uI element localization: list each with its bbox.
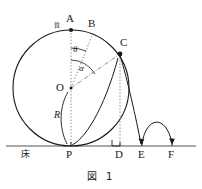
label-mass: 質 xyxy=(54,22,60,28)
label-point-c: C xyxy=(120,37,127,48)
point-marker-c xyxy=(118,52,123,57)
diagram-canvas xyxy=(0,0,202,189)
rolling-path-curve xyxy=(70,58,118,146)
radius-indicator-curve xyxy=(61,92,68,144)
label-point-p: P xyxy=(66,149,72,160)
arrowhead-at-e xyxy=(139,139,145,146)
label-floor: 床 xyxy=(21,150,30,159)
point-marker-o xyxy=(70,87,73,90)
label-angle-alpha: α xyxy=(79,64,84,73)
label-point-a: A xyxy=(66,13,74,24)
label-point-b: B xyxy=(88,18,95,29)
label-point-e: E xyxy=(138,149,145,160)
label-angle-theta: θ xyxy=(73,45,77,54)
projectile-path-ce xyxy=(120,55,141,144)
figure-caption: 図 1 xyxy=(0,168,202,183)
label-point-d: D xyxy=(115,149,123,160)
label-point-f: F xyxy=(168,149,174,160)
point-marker-a xyxy=(69,28,73,32)
label-radius-r: R xyxy=(54,110,60,120)
label-point-o: O xyxy=(56,82,64,93)
right-angle-marker-d xyxy=(112,140,120,146)
physics-figure: A 質 B C θ α O R 床 P D E F 図 1 xyxy=(0,0,202,189)
bounce-path-ef xyxy=(142,122,172,144)
